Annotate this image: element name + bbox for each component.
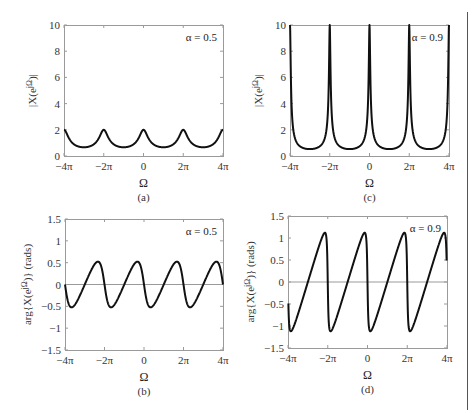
x-ticks: −4π−2π02π4π [55,25,229,172]
x-axis-label: Ω [363,368,372,382]
y-tick-label: 6 [281,71,287,83]
y-tick-label: 0 [279,276,285,288]
x-tick-label: 2π [178,354,190,366]
x-tick-label: 0 [365,352,371,364]
x-tick-label: −4π [281,160,299,172]
y-axis-label: |X(ejΩ)| [25,74,39,107]
plot-frame [65,26,224,157]
x-tick-label: 4π [217,354,229,366]
panel-caption: (b) [138,385,151,398]
y-tick-label: 0.5 [270,254,284,266]
x-tick-label: 0 [141,354,147,366]
x-tick-label: −4π [55,160,73,172]
magnitude-curve [290,25,449,149]
y-axis-label: |X(ejΩ)| [251,74,265,107]
panel-d: −1.5−1−0.500.511.5 −4π−2π02π4π α = 0.9 Ω… [243,210,453,396]
panel-a: 0246810 −4π−2π02π4π α = 0.5 Ω (a) |X(ejΩ… [25,19,229,204]
y-tick-label: 4 [55,98,61,110]
x-tick-label: 2π [402,352,414,364]
panel-caption: (d) [361,383,374,396]
x-axis-label: Ω [139,176,148,190]
x-tick-label: 0 [141,160,147,172]
x-tick-label: −2π [96,354,114,366]
y-tick-label: 8 [281,45,287,57]
y-tick-label: 10 [275,19,287,31]
y-tick-label: 8 [55,45,61,57]
alpha-annotation: α = 0.5 [186,225,218,237]
x-tick-label: −2π [95,160,113,172]
alpha-annotation: α = 0.9 [410,222,442,234]
y-tick-label: −1 [49,322,61,334]
y-tick-label: 1.5 [47,213,61,225]
figure-canvas: 0246810 −4π−2π02π4π α = 0.5 Ω (a) |X(ejΩ… [0,0,474,413]
y-tick-label: −1 [272,320,284,332]
alpha-annotation: α = 0.5 [186,31,218,43]
y-tick-label: 1 [279,232,285,244]
alpha-annotation: α = 0.9 [412,31,444,43]
x-tick-label: 4π [443,160,455,172]
y-axis-label: arg{X(ejΩ)} (rads) [20,244,34,325]
panel-caption: (a) [137,191,150,204]
y-tick-label: 1 [56,235,62,247]
y-tick-label: 10 [49,19,61,31]
y-tick-label: 1.5 [270,210,284,222]
y-tick-label: 4 [281,98,287,110]
y-tick-label: 2 [281,124,287,136]
x-tick-label: −4π [56,354,74,366]
x-tick-label: −2π [321,160,339,172]
x-tick-label: −2π [319,352,337,364]
panel-caption: (c) [363,191,376,204]
y-tick-label: −0.5 [264,298,284,310]
panel-c: 0246810 −4π−2π02π4π α = 0.9 Ω (c) |X(ejΩ… [251,19,455,204]
y-tick-label: 6 [55,71,61,83]
x-axis-label: Ω [140,370,149,384]
y-tick-label: 2 [55,124,61,136]
y-axis-label: arg{X(ejΩ)} (rads) [243,241,257,322]
y-tick-label: 0.5 [47,257,61,269]
y-tick-label: −0.5 [41,300,61,312]
magnitude-curve [64,130,223,147]
panel-b: −1.5−1−0.500.511.5 −4π−2π02π4π α = 0.5 Ω… [20,213,229,398]
y-tick-label: 0 [56,279,62,291]
x-tick-label: 2π [404,160,416,172]
x-axis-label: Ω [365,176,374,190]
x-tick-label: 2π [178,160,190,172]
x-tick-label: 4π [217,160,229,172]
x-tick-label: 0 [367,160,373,172]
x-tick-label: 4π [441,352,453,364]
x-tick-label: −4π [279,352,297,364]
